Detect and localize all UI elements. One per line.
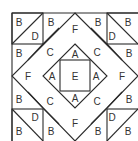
piece-label-left-F: F	[25, 71, 31, 82]
f-line-right-top	[107, 44, 122, 60]
piece-label-A-right: A	[93, 71, 100, 82]
piece-label-left-B-bottom: B	[16, 94, 23, 105]
piece-label-tl-corner-B: B	[16, 17, 23, 28]
f-line-right-bottom	[107, 92, 122, 108]
piece-label-C-top-left: C	[46, 47, 53, 58]
piece-label-A-top: A	[72, 49, 79, 60]
f-line-left-top	[28, 44, 43, 60]
piece-label-C-top-right: C	[93, 47, 100, 58]
piece-label-bottom-B-right: B	[95, 126, 102, 137]
piece-label-bottom-B-left: B	[48, 126, 55, 137]
f-line-left-bottom	[28, 92, 43, 108]
piece-label-A-bottom: A	[72, 93, 79, 104]
quilt-block-diagram: BDBFBDBBCACBFAEAFBCACBDBBFBDB	[0, 0, 138, 141]
piece-label-bl-corner-D: D	[31, 112, 38, 123]
piece-label-right-F: F	[119, 71, 125, 82]
piece-label-br-corner-B: B	[125, 126, 132, 137]
piece-label-top-B-left: B	[48, 17, 55, 28]
f-line-top-left	[43, 28, 59, 44]
piece-label-top-F: F	[72, 24, 78, 35]
piece-label-C-bottom-left: C	[46, 96, 53, 107]
piece-labels: BDBFBDBBCACBFAEAFBCACBDBBFBDB	[16, 17, 133, 137]
piece-label-A-left: A	[49, 71, 56, 82]
piece-label-top-B-right: B	[95, 17, 102, 28]
piece-label-tr-corner-B: B	[125, 17, 132, 28]
f-line-top-right	[91, 28, 107, 44]
piece-label-br-corner-D: D	[108, 112, 115, 123]
piece-label-bl-corner-B: B	[16, 126, 23, 137]
piece-label-C-bottom-right: C	[93, 96, 100, 107]
piece-label-center-E: E	[72, 71, 79, 82]
f-line-bottom-left	[43, 108, 59, 124]
piece-label-bottom-F: F	[72, 118, 78, 129]
piece-label-right-B-bottom: B	[126, 94, 133, 105]
piece-label-right-B-top: B	[126, 48, 133, 59]
piece-label-tl-corner-D: D	[31, 31, 38, 42]
piece-label-tr-corner-D: D	[108, 31, 115, 42]
f-line-bottom-right	[91, 108, 107, 124]
piece-label-left-B-top: B	[16, 48, 23, 59]
